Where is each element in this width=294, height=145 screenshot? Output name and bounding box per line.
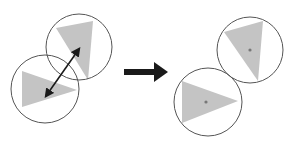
- diagram-canvas: [0, 0, 294, 145]
- center-dot: [204, 100, 207, 103]
- after-group: [174, 17, 283, 136]
- after-shape-upper: [217, 17, 283, 83]
- transition-arrow-icon: [124, 62, 168, 82]
- triangle: [224, 21, 263, 81]
- triangle: [22, 71, 77, 107]
- before-shape-upper: [46, 14, 112, 80]
- before-shape-lower: [11, 55, 79, 123]
- after-shape-lower: [174, 68, 242, 136]
- triangle: [182, 81, 238, 123]
- center-dot: [248, 48, 251, 51]
- before-group: [11, 14, 112, 123]
